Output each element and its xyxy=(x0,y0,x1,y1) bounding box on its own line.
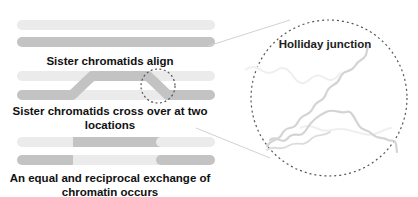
holliday-junction-zoom: Holliday junction xyxy=(245,20,407,176)
holliday-junction-diagram: Sister chromatids align Sister chromatid… xyxy=(0,0,418,197)
label-step-align: Sister chromatids align xyxy=(46,55,173,67)
step-crossover: Sister chromatids cross over at two loca… xyxy=(13,69,210,131)
label-step-crossover-line2: locations xyxy=(85,119,135,131)
label-step-exchange-line2: chromatin occurs xyxy=(62,186,159,197)
holliday-junction-label: Holliday junction xyxy=(279,38,372,50)
label-step-crossover-line1: Sister chromatids cross over at two xyxy=(13,105,208,117)
step-exchange: An equal and reciprocal exchange of chro… xyxy=(10,142,211,197)
step-align: Sister chromatids align xyxy=(22,25,210,67)
label-step-exchange-line1: An equal and reciprocal exchange of xyxy=(10,172,211,184)
